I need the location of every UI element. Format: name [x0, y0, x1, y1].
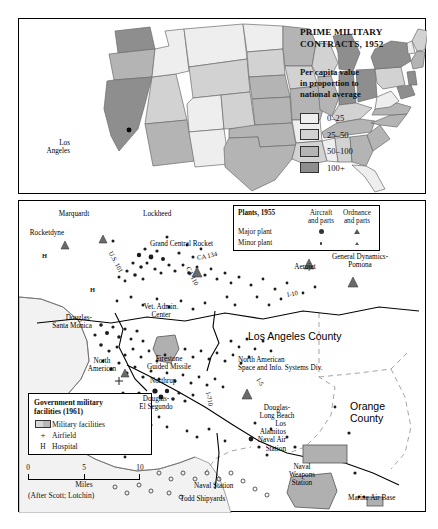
gov-legend-item: + Airfield	[34, 430, 146, 441]
legend-label-1: 25–50	[327, 130, 348, 140]
gov-legend-label-0: Military facilities	[52, 420, 105, 429]
label-naval-weapons-station: Naval Weapons Station	[278, 463, 326, 488]
legend-item: 50–100	[300, 143, 420, 160]
plants-legend-row-major: Major plant	[238, 225, 303, 236]
legend-label-3: 100+	[327, 163, 345, 173]
scale-tick-10: 10	[136, 463, 143, 472]
label-firestone-guided-missile: Firestone Guided Missile	[133, 355, 205, 371]
legend-item: 0–25	[300, 110, 420, 127]
label-douglas-long-beach: Douglas- Long Beach	[252, 404, 302, 420]
page-title: PRIME MILITARY CONTRACTS, 1952	[300, 27, 424, 50]
hospital-icon: H	[34, 442, 52, 451]
freeway-i10	[37, 307, 419, 323]
label-los-angeles-county: Los Angeles County	[248, 330, 368, 342]
label-north-american: North American	[80, 357, 124, 373]
scale-bar-line	[28, 472, 140, 480]
freeway-us101	[115, 313, 147, 391]
plants-legend-col-ordnance: Ordnance and parts	[339, 209, 375, 225]
label-aerojet: Aerojet	[285, 263, 325, 271]
legend-swatch-0	[300, 113, 319, 124]
legend-swatch-1	[300, 129, 319, 140]
label-north-american-space: North American Space and Info. Systems D…	[238, 356, 346, 372]
label-northrup: Northrup	[150, 377, 198, 385]
label-grand-central-rocket: Grand Central Rocket	[150, 240, 245, 248]
minor-aircraft-symbol	[303, 237, 339, 247]
freeway-ca110	[207, 311, 219, 371]
label-general-dynamics: General Dynamics- Pomona	[320, 253, 400, 269]
plants-legend-col-aircraft: Aircraft and parts	[303, 209, 339, 225]
label-marine-air-base: Marine Air Base	[348, 494, 420, 502]
label-douglas-el-segundo: Douglas- El Segundo	[130, 395, 182, 411]
label-rocketdyne: Rocketdyne	[18, 229, 76, 237]
scale-tick-0: 0	[26, 463, 30, 472]
legend-label-0: 0–25	[327, 113, 344, 123]
plants-legend-row-minor: Minor plant	[238, 237, 303, 247]
hospital-marker: H	[90, 286, 95, 293]
label-orange-county: Orange County	[350, 400, 412, 424]
scale-tick-5: 5	[82, 463, 86, 472]
label-naval-station: Naval Station	[194, 482, 260, 490]
airfield-icon: +	[34, 431, 52, 440]
gov-legend-item: Military facilities	[34, 419, 146, 430]
label-douglas-santa-monica: Douglas- Santa Monica	[20, 314, 92, 330]
label-vet-admin-center: Vet. Admin. Center	[135, 303, 187, 319]
major-ordnance-symbol	[339, 225, 375, 236]
major-aircraft-symbol	[303, 225, 339, 236]
label-lockheed: Lockheed	[143, 210, 203, 218]
legend-item: 100+	[300, 160, 420, 177]
legend-subtitle: Per capita value in proportion to nation…	[300, 67, 420, 99]
military-facility-swatch-icon	[34, 420, 52, 430]
los-angeles-dot	[127, 128, 132, 133]
hospital-marker: H	[42, 252, 47, 259]
legend-swatch-3	[300, 162, 319, 173]
plants-legend: Plants, 1955 Aircraft and parts Ordnance…	[233, 205, 380, 251]
source-attribution: (After Scott; Lotchin)	[28, 491, 140, 500]
plants-legend-title: Plants, 1955	[238, 209, 303, 225]
label-los-angeles: Los Angeles	[22, 139, 70, 155]
label-marquardt: Marquardt	[46, 210, 102, 218]
choropleth-legend: 0–25 25–50 50–100 100+	[300, 110, 420, 176]
minor-ordnance-symbol	[339, 237, 375, 247]
legend-swatch-2	[300, 146, 319, 157]
los-alamitos-naval-air-station-area	[303, 445, 347, 463]
gov-legend-label-2: Hospital	[52, 442, 78, 451]
label-todd-shipyards: Todd Shipyards	[180, 495, 260, 503]
scale-units: Miles	[28, 480, 140, 489]
gov-legend-label-1: Airfield	[52, 431, 76, 440]
legend-item: 25–50	[300, 127, 420, 144]
legend-label-2: 50–100	[327, 146, 353, 156]
figure-root: PRIME MILITARY CONTRACTS, 1952 Per capit…	[0, 0, 438, 529]
gov-legend-item: H Hospital	[34, 441, 146, 452]
scale-bar: 0 5 10 Miles (After Scott; Lotchin)	[28, 463, 140, 500]
label-los-alamitos-naval-air-station: Los Alamitos Naval Air Station	[234, 420, 286, 453]
